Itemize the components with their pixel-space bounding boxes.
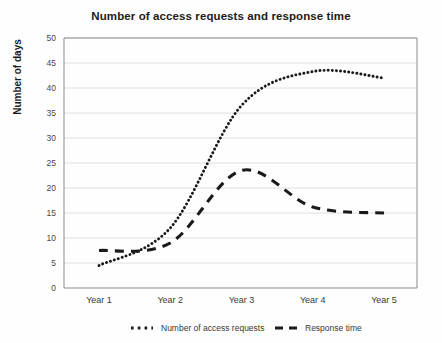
legend-label: Number of access requests [161,323,264,333]
y-tick-label: 10 [47,233,57,243]
y-tick-label: 45 [47,58,57,68]
y-tick-label: 50 [47,33,57,43]
y-tick-label: 20 [47,183,57,193]
x-tick-label: Year 2 [157,295,183,305]
series-line [99,170,384,251]
y-tick-label: 0 [51,283,56,293]
y-tick-label: 30 [47,133,57,143]
legend-group: Number of access requestsResponse time [131,323,362,333]
chart-container: Number of access requests and response t… [0,0,442,343]
x-tick-label: Year 5 [371,295,397,305]
series-line [99,70,384,265]
x-tick-label: Year 1 [86,295,112,305]
x-tick-labels-group: Year 1Year 2Year 3Year 4Year 5 [86,295,397,305]
y-tick-label: 40 [47,83,57,93]
gridlines-group [64,38,417,263]
y-tick-label: 5 [51,258,56,268]
plot-svg: 05101520253035404550 Year 1Year 2Year 3Y… [0,0,442,343]
y-tick-label: 25 [47,158,57,168]
y-tick-label: 35 [47,108,57,118]
x-tick-label: Year 3 [229,295,255,305]
y-tick-label: 15 [47,208,57,218]
x-tick-label: Year 4 [300,295,326,305]
legend-label: Response time [305,323,362,333]
series-lines-group [99,70,384,265]
y-tick-labels-group: 05101520253035404550 [47,33,57,293]
